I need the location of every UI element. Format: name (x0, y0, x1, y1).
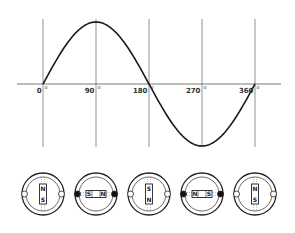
pole-left: S (87, 190, 91, 197)
brush-right (59, 191, 65, 197)
tick-label-270: 270 (186, 87, 201, 95)
rotor-270: NS (181, 173, 224, 215)
degree-symbol: o (98, 84, 101, 90)
brush-right (112, 191, 118, 197)
pole-bottom: S (253, 196, 257, 203)
pole-right: S (207, 190, 211, 197)
brush-left (234, 191, 240, 197)
brush-left (75, 191, 81, 197)
pole-top: S (147, 185, 151, 192)
brush-left (128, 191, 134, 197)
brush-right (165, 191, 171, 197)
pole-bottom: N (146, 196, 151, 203)
sine-wave-diagram: 0o90o180o270o360o NSSNSNNSNS (0, 0, 295, 233)
degree-symbol: o (204, 84, 207, 90)
brush-left (181, 191, 187, 197)
rotor-360: NS (234, 173, 277, 215)
pole-top: N (40, 185, 45, 192)
brush-left (22, 191, 28, 197)
pole-left: N (192, 190, 197, 197)
tick-label-180: 180 (133, 87, 148, 95)
rotor-diagrams: NSSNSNNSNS (22, 173, 277, 215)
degree-symbol: o (151, 84, 154, 90)
rotor-180: SN (128, 173, 171, 215)
rotor-0: NS (22, 173, 65, 215)
degree-symbol: o (257, 84, 260, 90)
pole-right: N (100, 190, 105, 197)
brush-right (271, 191, 277, 197)
rotor-90: SN (75, 173, 118, 215)
degree-symbol: o (45, 84, 48, 90)
tick-label-90: 90 (85, 87, 95, 95)
pole-top: N (252, 185, 257, 192)
tick-label-0: 0 (37, 87, 42, 95)
pole-bottom: S (41, 196, 45, 203)
brush-right (218, 191, 224, 197)
tick-label-360: 360 (239, 87, 254, 95)
x-tick-labels: 0o90o180o270o360o (37, 84, 260, 95)
